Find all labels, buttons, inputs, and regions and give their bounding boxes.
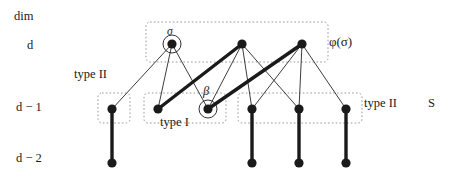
- level-label-d-minus-1: d − 1: [16, 101, 42, 114]
- annotation-type-ii-right: type II: [364, 97, 397, 110]
- graph-node-m6: [341, 104, 350, 113]
- graph-node-b1: [107, 158, 116, 167]
- edge-t3-m6: [302, 44, 346, 109]
- graph-node-b3: [294, 158, 303, 167]
- edge-t1-m1: [112, 44, 172, 109]
- graph-node-b2: [247, 158, 256, 167]
- level-label-d: d: [27, 39, 33, 52]
- annotation-type-i: type I: [160, 116, 189, 129]
- annotation-type-ii-left: type II: [74, 68, 107, 81]
- edge-t3-m3: [208, 44, 302, 109]
- graph-node-m3: [203, 104, 212, 113]
- graph-node-t3: [297, 39, 306, 48]
- graph-node-m5: [294, 104, 303, 113]
- node-label-sigma: σ: [167, 26, 173, 38]
- edge-t2-m2: [158, 44, 242, 109]
- dashed-box-layer: [98, 22, 362, 123]
- edge-t3-m5: [299, 44, 302, 109]
- figure-root: dim d d − 1 d − 2 type II type I type II…: [0, 0, 460, 181]
- graph-node-m2: [153, 104, 162, 113]
- edge-layer: [112, 44, 346, 163]
- graph-node-t1: [167, 39, 176, 48]
- edge-t3-m4: [252, 44, 302, 109]
- graph-node-b4: [341, 158, 350, 167]
- axis-title-dim: dim: [14, 10, 33, 23]
- annotation-set-s: S: [428, 97, 435, 110]
- graph-node-t2: [237, 39, 246, 48]
- graph-canvas: [0, 0, 460, 181]
- node-label-beta: β: [203, 85, 209, 98]
- annotation-phi-sigma: φ(σ): [329, 35, 352, 48]
- graph-node-m4: [247, 104, 256, 113]
- level-label-d-minus-2: d − 2: [16, 152, 42, 165]
- graph-node-m1: [107, 104, 116, 113]
